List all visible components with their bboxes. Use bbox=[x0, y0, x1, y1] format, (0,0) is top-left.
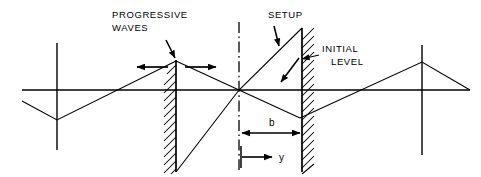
progressive-waves-label-line2: WAVES bbox=[112, 22, 148, 33]
initial-level-label-line1: INITIAL bbox=[322, 43, 358, 54]
setup-label: SETUP bbox=[268, 9, 303, 20]
initial-level-pointer-arrow bbox=[281, 58, 299, 82]
left-wall bbox=[164, 60, 176, 174]
progressive-waves-leader-arrow bbox=[166, 40, 175, 58]
initial-level-label-line2: LEVEL bbox=[331, 56, 364, 67]
diagram-canvas: PROGRESSIVE WAVES SETUP INITIAL LEVEL b … bbox=[0, 0, 481, 177]
diagram-figure: PROGRESSIVE WAVES SETUP INITIAL LEVEL b … bbox=[0, 0, 481, 177]
setup-leader-arrow bbox=[274, 26, 279, 46]
left-wall-hatching bbox=[164, 65, 176, 174]
right-wall bbox=[302, 28, 314, 174]
dimension-b-label: b bbox=[269, 117, 275, 128]
right-wall-hatching bbox=[302, 28, 314, 174]
dimension-y-label: y bbox=[279, 152, 284, 163]
progressive-waves-label-line1: PROGRESSIVE bbox=[112, 9, 188, 20]
